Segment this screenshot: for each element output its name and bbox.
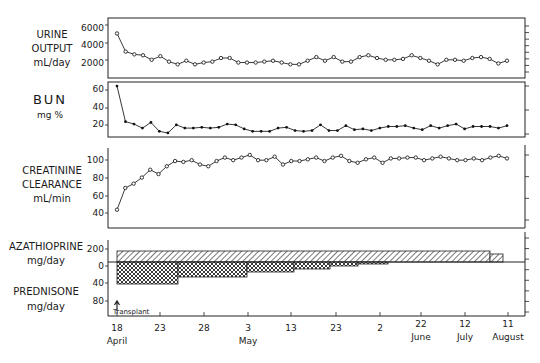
data-point [364, 158, 367, 161]
data-point [414, 156, 417, 159]
urine-ytick-4000: 4000 [81, 40, 104, 50]
data-point [375, 56, 378, 59]
data-point [141, 127, 144, 130]
drug-ytick-80: 80 [93, 296, 105, 306]
data-point [173, 159, 176, 162]
data-point [302, 130, 305, 133]
data-point [237, 61, 240, 64]
data-point [192, 127, 195, 130]
data-point [314, 156, 317, 159]
data-point [219, 56, 222, 59]
data-point [384, 58, 387, 61]
data-point [345, 124, 348, 127]
data-point [150, 121, 153, 124]
data-point [462, 59, 465, 62]
creat-ytick-60: 60 [93, 191, 105, 201]
data-point [290, 159, 293, 162]
data-point [341, 60, 344, 63]
creat-label-3: mL/min [33, 193, 71, 204]
data-point [446, 124, 449, 127]
data-point [133, 53, 136, 56]
data-point [281, 163, 284, 166]
data-point [497, 62, 500, 65]
series-line [117, 33, 507, 64]
data-point [175, 123, 178, 126]
data-point [378, 127, 381, 130]
data-point [356, 161, 359, 164]
data-point [226, 123, 229, 126]
x-tick-month: August [492, 332, 524, 342]
x-tick-month: June [410, 332, 431, 342]
urine-label-2: OUTPUT [32, 43, 74, 54]
data-point [140, 176, 143, 179]
creat-ytick-100: 100 [87, 155, 104, 165]
aza-label-1: AZATHIOPRINE [9, 241, 83, 252]
bun-series [116, 85, 509, 135]
data-point [251, 130, 254, 133]
data-point [479, 55, 482, 58]
data-point [298, 159, 301, 162]
data-point [315, 55, 318, 58]
data-point [453, 58, 456, 61]
bun-label-1: BUN [33, 92, 67, 107]
data-point [412, 127, 415, 130]
data-point [381, 161, 384, 164]
data-point [353, 128, 356, 131]
data-point [480, 125, 483, 128]
data-point [132, 182, 135, 185]
data-point [207, 165, 210, 168]
data-point [150, 58, 153, 61]
data-point [397, 157, 400, 160]
data-point [248, 153, 251, 156]
creat-label-2: CLEARANCE [22, 179, 82, 190]
data-point [331, 156, 334, 159]
azathioprine-bar [117, 251, 490, 262]
data-point [280, 61, 283, 64]
urine-panel-frame [108, 18, 525, 78]
data-point [215, 159, 218, 162]
data-point [497, 127, 500, 130]
data-point [393, 58, 396, 61]
x-tick-month: April [107, 336, 128, 346]
data-point [193, 63, 196, 66]
creat-ytick-40: 40 [93, 208, 105, 218]
data-point [115, 208, 118, 211]
data-point [228, 56, 231, 59]
prednisone-bar [117, 262, 178, 284]
bun-label-2: mg % [37, 110, 63, 120]
data-point [265, 158, 268, 161]
data-point [489, 125, 492, 128]
creat-label-1: CREATININE [22, 165, 82, 176]
data-point [243, 128, 246, 131]
data-point [116, 85, 119, 88]
x-tick-day: 28 [198, 323, 210, 333]
data-point [336, 129, 339, 132]
data-point [277, 127, 280, 130]
x-tick-day: 18 [111, 323, 123, 333]
data-point [406, 156, 409, 159]
data-point [497, 154, 500, 157]
data-point [260, 130, 263, 133]
data-point [311, 129, 314, 132]
data-point [159, 54, 162, 57]
data-point [166, 132, 169, 135]
data-point [209, 127, 212, 130]
bun-panel-frame [108, 82, 525, 137]
data-point [439, 155, 442, 158]
data-point [306, 59, 309, 62]
data-point [124, 186, 127, 189]
x-tick-day: 23 [330, 323, 341, 333]
data-point [506, 124, 509, 127]
data-point [429, 124, 432, 127]
bun-ytick-20: 20 [93, 119, 105, 129]
data-point [387, 125, 390, 128]
data-point [472, 125, 475, 128]
data-point [361, 128, 364, 131]
prednisone-bar [178, 262, 247, 277]
data-point [339, 154, 342, 157]
data-point [401, 57, 404, 60]
azathioprine-bar [490, 254, 503, 262]
data-point [427, 59, 430, 62]
data-point [370, 129, 373, 132]
x-tick-day: 2 [377, 323, 383, 333]
